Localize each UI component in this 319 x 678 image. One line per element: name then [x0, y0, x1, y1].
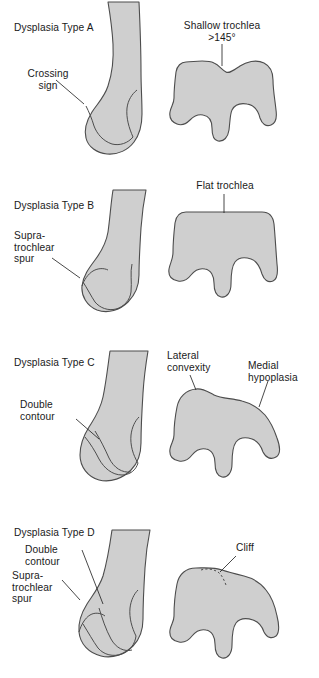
trochlear-dysplasia-figure: Dysplasia Type A Crossing sign Shallow t…	[0, 0, 319, 678]
panel-a-graphics	[0, 0, 319, 170]
panel-type-b: Dysplasia Type B Supra- trochlear spur F…	[0, 170, 319, 340]
panel-c-graphics	[0, 339, 319, 509]
panel-type-d: Dysplasia Type D Double contour Supra- t…	[0, 508, 319, 678]
axial-femur-type-d-shape	[170, 568, 279, 658]
panel-b-graphics	[0, 170, 319, 340]
axial-femur-type-b-shape	[169, 212, 278, 297]
panel-d-graphics	[0, 508, 319, 678]
lateral-convexity-leader	[190, 375, 196, 390]
lateral-femur-type-c-shape	[80, 351, 148, 481]
panel-type-c: Dysplasia Type C Double contour Lateral …	[0, 339, 319, 509]
lateral-femur-type-a-shape	[85, 2, 142, 154]
crossing-sign-leader	[56, 80, 84, 104]
axial-femur-type-c-shape	[170, 389, 280, 477]
supratrochlear-spur-leader-b	[52, 258, 80, 278]
lateral-femur-type-d-shape	[79, 530, 150, 657]
supratrochlear-spur-leader-d	[62, 580, 80, 600]
panel-type-a: Dysplasia Type A Crossing sign Shallow t…	[0, 0, 319, 170]
lateral-femur-type-b-shape	[82, 190, 146, 312]
medial-hypoplasia-leader	[259, 381, 268, 407]
cliff-leader	[220, 556, 236, 572]
axial-femur-type-a-shape	[170, 61, 277, 141]
